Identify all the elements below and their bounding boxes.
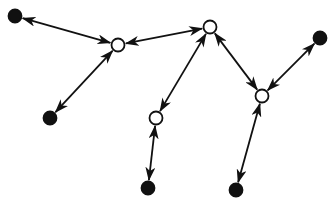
edge-hub-right-leaf-bottom-right — [238, 104, 260, 183]
node-leaf-top-left — [9, 10, 22, 23]
node-hub-left — [112, 39, 125, 52]
node-leaf-bottom-right — [230, 184, 243, 197]
network-diagram — [0, 0, 335, 205]
edge-leaf-left-hub-left — [55, 51, 112, 112]
node-leaf-left — [44, 112, 57, 125]
node-leaf-bottom-middle — [142, 182, 155, 195]
edge-layer — [23, 18, 315, 182]
node-hub-top — [204, 21, 217, 34]
edge-hub-middle-leaf-bottom-middle — [149, 126, 155, 180]
node-layer — [9, 10, 327, 197]
edge-hub-left-hub-top — [126, 29, 202, 44]
node-hub-middle — [150, 112, 163, 125]
node-leaf-right — [314, 32, 327, 45]
edge-hub-top-hub-middle — [160, 34, 206, 111]
edge-leaf-top-left-hub-left — [23, 18, 111, 43]
node-hub-right — [256, 90, 269, 103]
edge-hub-top-hub-right — [215, 33, 257, 89]
edge-hub-right-leaf-right — [268, 44, 315, 91]
